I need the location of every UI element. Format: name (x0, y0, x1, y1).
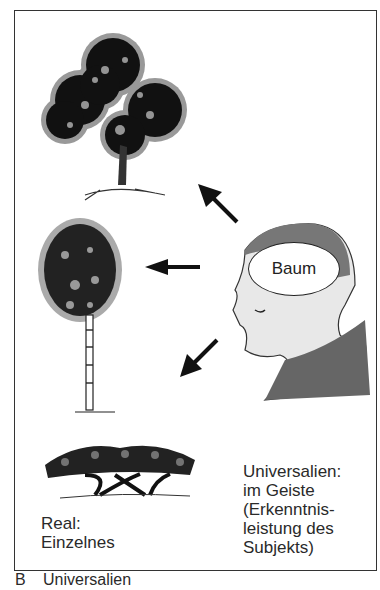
right-label-line-1: Universalien: (243, 462, 341, 481)
right-label: Universalien: im Geiste (Erkenntnis- lei… (243, 462, 341, 557)
left-label: Real: Einzelnes (41, 514, 115, 552)
left-label-line-1: Real: (41, 514, 115, 533)
figure-caption: BUniversalien (15, 571, 131, 589)
caption-title: Universalien (43, 571, 131, 588)
thought-bubble-text: Baum (272, 259, 316, 279)
right-label-line-4: leistung des (243, 519, 341, 538)
left-label-line-2: Einzelnes (41, 533, 115, 552)
right-label-line-5: Subjekts) (243, 538, 341, 557)
caption-letter: B (15, 571, 43, 589)
arrow-to-middle-tree-icon (145, 259, 200, 275)
arrow-to-bottom-tree-icon (180, 340, 217, 377)
right-label-line-3: (Erkenntnis- (243, 500, 341, 519)
thinker-head-icon (225, 210, 375, 410)
right-label-line-2: im Geiste (243, 481, 341, 500)
thought-bubble: Baum (248, 242, 340, 296)
